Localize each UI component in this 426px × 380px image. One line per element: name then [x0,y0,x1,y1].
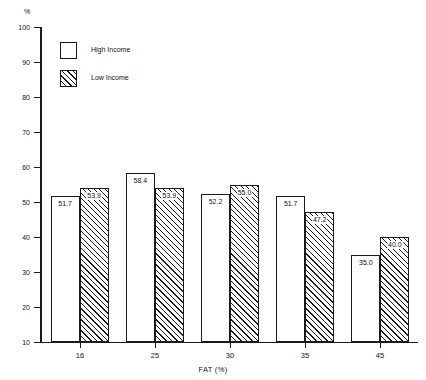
y-axis-tick-label: 50 [8,199,30,206]
legend-label-low-income: Low Income [91,74,129,82]
legend-swatch-hatched-icon [60,70,77,87]
y-axis-tick-label: 80 [8,94,30,101]
bar-value-label: 47.2 [312,216,328,224]
y-axis-tick [34,307,42,308]
bar-low-income-35: 47.2 [305,212,334,342]
x-axis-tick-label: 30 [210,352,250,360]
bar-value-label: 55.0 [237,189,253,197]
y-axis-tick [34,62,42,63]
legend-label-high-income: High Income [91,46,130,54]
legend-swatch-open-icon [60,42,77,59]
bar-chart: % 100908070605040302010 51.753.958.453.9… [0,0,426,380]
bar-high-income-45: 35.0 [351,255,380,343]
y-axis-tick-label: 20 [8,304,30,311]
y-axis-tick [34,27,42,28]
x-axis-tick-label: 45 [360,352,400,360]
y-axis-tick [34,237,42,238]
x-axis-line [40,342,418,343]
legend-item-high-income: High Income [60,36,130,64]
y-axis-tick-label: 90 [8,59,30,66]
x-axis-tick [380,342,381,348]
legend: High Income Low Income [60,36,130,92]
y-axis-tick-label: 30 [8,269,30,276]
x-axis-tick-label: 16 [60,352,100,360]
y-axis-tick [34,132,42,133]
bar-high-income-35: 51.7 [276,196,305,342]
legend-item-low-income: Low Income [60,64,130,92]
bar-low-income-16: 53.9 [80,188,109,342]
x-axis-tick-label: 35 [285,352,325,360]
bar-value-label: 53.9 [86,192,102,200]
x-axis-tick [80,342,81,348]
bar-value-label: 51.7 [52,200,79,208]
x-axis-tick [305,342,306,348]
y-axis-tick [34,97,42,98]
bar-high-income-16: 51.7 [51,196,80,342]
bar-value-label: 40.0 [387,241,403,249]
bar-low-income-30: 55.0 [230,185,259,343]
bar-high-income-30: 52.2 [201,194,230,342]
y-axis-tick-label: 70 [8,129,30,136]
bar-high-income-25: 58.4 [126,173,155,342]
y-axis-tick-label: 40 [8,234,30,241]
x-axis-tick [155,342,156,348]
bar-low-income-45: 40.0 [380,237,409,342]
x-axis-tick-label: 25 [135,352,175,360]
y-axis-tick [34,167,42,168]
bar-value-label: 53.9 [161,192,177,200]
bar-value-label: 35.0 [352,259,379,267]
bar-value-label: 51.7 [277,200,304,208]
y-axis-tick [34,342,42,343]
bar-value-label: 52.2 [202,198,229,206]
y-axis-tick-label: 10 [8,339,30,346]
x-axis-title: FAT (%) [0,366,426,374]
y-axis-unit-label: % [24,8,30,16]
bar-value-label: 58.4 [127,177,154,185]
y-axis-tick-label: 60 [8,164,30,171]
y-axis-tick [34,272,42,273]
y-axis-tick-label: 100 [8,24,30,31]
x-axis-tick [230,342,231,348]
y-axis-line [40,27,42,343]
y-axis-tick [34,202,42,203]
bar-low-income-25: 53.9 [155,188,184,342]
